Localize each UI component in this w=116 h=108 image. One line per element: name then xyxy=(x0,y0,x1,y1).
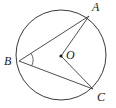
geometry-figure: A B C O xyxy=(0,0,116,108)
angle-arc-at-b-icon xyxy=(31,54,33,66)
vertex-label-c: C xyxy=(97,91,105,103)
center-point-dot xyxy=(59,54,62,57)
vertex-label-b: B xyxy=(4,55,11,67)
chord-bc xyxy=(19,61,93,89)
center-label-o: O xyxy=(66,49,75,61)
vertex-label-a: A xyxy=(92,1,99,13)
